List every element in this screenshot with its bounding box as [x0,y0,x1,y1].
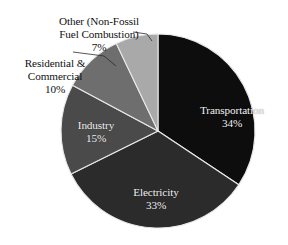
slice-value-transportation: 34% [182,117,282,130]
slice-label-electricity: Electricity 33% [110,186,202,213]
slice-value-residential-commercial: 10% [2,83,108,96]
slice-label-other-text: Other (Non-Fossil Fuel Combustion) [59,15,139,40]
slice-label-industry-text: Industry [78,119,115,131]
slice-label-transportation-text: Transportation [200,104,264,116]
slice-value-industry: 15% [60,132,132,145]
slice-value-electricity: 33% [110,199,202,212]
slice-label-industry: Industry 15% [60,119,132,146]
slice-label-residential-commercial-text: Residential & Commercial [25,57,86,82]
slice-label-electricity-text: Electricity [133,186,179,198]
slice-label-residential-commercial: Residential & Commercial 10% [2,44,108,109]
slice-label-transportation: Transportation 34% [182,104,282,131]
pie-chart: Other (Non-Fossil Fuel Combustion) 7% Re… [0,0,288,245]
